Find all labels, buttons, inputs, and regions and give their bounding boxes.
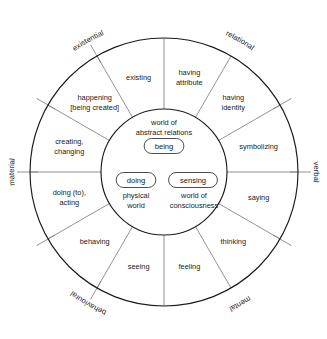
diagram-canvas: havingattributehavingidentitysymbolizing… xyxy=(0,0,327,339)
category-tick-2 xyxy=(273,235,291,246)
category-label-behavioural: behavioural xyxy=(68,289,107,317)
pill-label-sensing: sensing xyxy=(180,176,206,185)
pill-label-doing: doing xyxy=(127,176,146,185)
category-label-mental: mental xyxy=(228,294,253,314)
sector-label-saying: saying xyxy=(248,193,269,202)
sector-label-creating-changing: creating,changing xyxy=(54,137,84,156)
inner-label-consciousness-world: world ofconsciousness xyxy=(170,191,219,210)
sector-label-having-identity: havingidentity xyxy=(222,93,246,112)
pill-label-being: being xyxy=(155,142,174,151)
sector-label-behaving: behaving xyxy=(80,237,110,246)
inner-label-physical-world: physicalworld xyxy=(123,191,150,210)
inner-label-abstract-relations: world ofabstract relations xyxy=(136,118,193,137)
sector-divider-7 xyxy=(97,227,133,288)
category-tick-7 xyxy=(91,45,102,63)
sector-label-having-attribute: havingattribute xyxy=(176,68,203,87)
sector-divider-5 xyxy=(196,227,232,288)
category-tick-4 xyxy=(37,235,55,246)
sector-label-happening-being-created: happening[being created] xyxy=(70,93,119,112)
sector-label-feeling: feeling xyxy=(178,262,200,271)
category-tick-0 xyxy=(273,99,291,110)
sector-label-doing-to-acting: doing (to),acting xyxy=(53,188,86,207)
sector-divider-4 xyxy=(219,204,280,240)
category-label-relational: relational xyxy=(224,29,256,53)
sector-label-thinking: thinking xyxy=(221,237,246,246)
category-label-existential: existential xyxy=(71,28,105,53)
category-tick-6 xyxy=(37,99,55,110)
process-types-wheel: havingattributehavingidentitysymbolizing… xyxy=(0,0,327,339)
category-label-material: material xyxy=(7,158,17,186)
sector-label-existing: existing xyxy=(126,73,151,82)
sector-divider-8 xyxy=(48,204,109,240)
sector-label-symbolizing: symbolizing xyxy=(239,142,278,151)
category-label-verbal: verbal xyxy=(312,161,321,183)
category-tick-3 xyxy=(91,281,102,299)
sector-label-seeing: seeing xyxy=(128,262,150,271)
